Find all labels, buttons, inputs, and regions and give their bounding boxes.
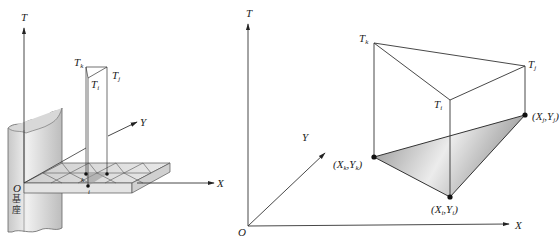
node-k-dot (84, 172, 88, 176)
left-origin-label: O (13, 182, 21, 194)
left-y-label: Y (140, 116, 148, 128)
base-label-char-2: 座 (12, 204, 21, 215)
right-x-label: X (514, 219, 523, 231)
right-y-axis (248, 153, 325, 226)
left-y-axis (108, 122, 137, 136)
right-x-axis (248, 224, 509, 226)
vertex-j-dot (522, 112, 527, 117)
left-diagram: 基 座 (8, 11, 225, 232)
left-ti-label: Ti (91, 78, 99, 92)
left-tk-label: Tk (74, 56, 84, 70)
right-diagram: T X Y O Tk Tj Ti (Xk,Yk) (Xi,Yi) (Xj,Yj) (238, 7, 559, 238)
left-t-label: T (21, 11, 28, 23)
base-label-char-1: 基 (12, 193, 21, 204)
vertex-j-label: (Xj,Yj) (532, 110, 559, 124)
figure: 基 座 (0, 0, 559, 245)
left-tj-label: Tj (112, 69, 120, 83)
right-tk-label: Tk (359, 32, 369, 46)
right-origin-label: O (238, 226, 246, 238)
node-j-dot (105, 172, 109, 176)
right-ti-label: Ti (434, 98, 442, 112)
node-i-label: i (88, 188, 90, 196)
vertex-i-label: (Xi,Yi) (431, 203, 458, 217)
right-tj-label: Tj (528, 58, 536, 72)
vertex-i-dot (447, 194, 452, 199)
vertex-k-label: (Xk,Yk) (333, 158, 362, 172)
vertex-k-dot (371, 154, 376, 159)
left-x-label: X (216, 177, 225, 189)
right-y-label: Y (302, 131, 310, 143)
right-t-label: T (246, 7, 253, 19)
base-triangle (374, 115, 525, 197)
